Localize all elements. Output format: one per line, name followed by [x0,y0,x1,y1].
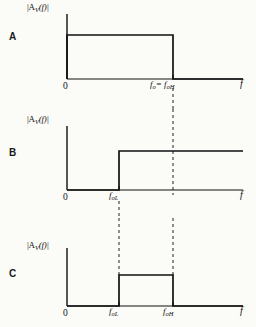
tick-label-b-fol-sub: oL [112,194,119,201]
response-curve-a [67,35,243,79]
tick-label-a-fo-sub2: oH [167,83,175,90]
origin-label-c: 0 [63,308,68,318]
x-axis-label-a: f [240,78,243,89]
tick-label-c-fol-sub: oL [112,310,119,317]
plot-svg-c [0,218,256,327]
tick-label-a-fo: fo= foH [150,79,175,90]
panel-b: B |AV(f)| 0 foL f [0,109,256,218]
x-axis-label-b: f [240,189,243,200]
origin-label-b: 0 [63,192,68,202]
filter-response-figure: A |AV(f)| 0 fo= foH f B |AV(f)| [0,0,256,327]
response-curve-b [67,151,243,190]
plot-svg-b [0,109,256,218]
tick-label-b-fol: foL [109,190,118,201]
response-curve-c [67,275,243,306]
x-axis-label-c: f [240,305,243,316]
tick-label-c-foh-sub: oH [166,310,174,317]
plot-svg-a [0,0,256,109]
tick-label-a-fo-tail: = f [156,79,167,89]
panel-a: A |AV(f)| 0 fo= foH f [0,0,256,109]
origin-label-a: 0 [63,81,68,91]
tick-label-c-foh: foH [163,306,173,317]
panel-c: C |AV(f)| 0 foL foH f [0,218,256,327]
tick-label-c-fol: foL [109,306,118,317]
